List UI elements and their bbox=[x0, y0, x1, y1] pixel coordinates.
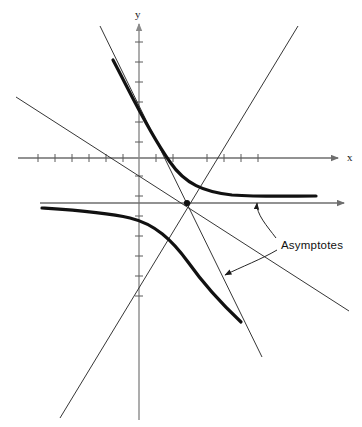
hyperbola-lower-branch bbox=[42, 208, 241, 322]
asymptotes-label: Asymptotes bbox=[281, 239, 343, 251]
hyperbola-upper-branch bbox=[113, 60, 316, 196]
asymptote-lines bbox=[16, 26, 349, 418]
x-axis-label: x bbox=[347, 151, 353, 163]
asymptote-leader-arrows bbox=[225, 203, 277, 275]
descending-asymptote-line bbox=[16, 97, 349, 311]
leader-arrow-to-descending-asymptote bbox=[225, 250, 277, 275]
y-axis-label: y bbox=[135, 8, 141, 20]
hyperbola-curves bbox=[42, 60, 316, 322]
graph-canvas: x y Asymptotes bbox=[0, 0, 362, 427]
hyperbola-center-point bbox=[184, 200, 190, 206]
coordinate-axes: x y bbox=[18, 8, 353, 420]
leader-arrow-to-horizontal-asymptote bbox=[257, 203, 276, 238]
hyperbola-asymptotes-figure: x y Asymptotes bbox=[0, 0, 362, 427]
ascending-asymptote-line bbox=[60, 26, 298, 418]
steep-asymptote-line bbox=[100, 26, 262, 357]
